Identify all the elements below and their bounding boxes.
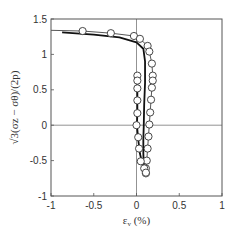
y-axis-label: √3(σz − σθ)/(2p) bbox=[8, 70, 21, 144]
y-tick-label: 1.5 bbox=[33, 14, 47, 25]
data-point-circle bbox=[144, 145, 151, 152]
data-point-circle bbox=[146, 48, 153, 55]
data-point-circle bbox=[135, 145, 142, 152]
data-point-circle bbox=[137, 158, 144, 165]
data-point-circle bbox=[135, 134, 142, 141]
data-point-circle bbox=[79, 27, 86, 34]
y-tick-label: 0.5 bbox=[33, 84, 47, 95]
data-point-circle bbox=[145, 133, 152, 140]
y-tick-label: -0.5 bbox=[30, 155, 48, 166]
data-point-circle bbox=[133, 122, 140, 129]
y-tick-label: 1 bbox=[41, 49, 47, 60]
x-tick-label: 1 bbox=[219, 200, 225, 211]
data-point-circle bbox=[134, 85, 141, 92]
x-tick-label: -0.5 bbox=[85, 200, 103, 211]
data-point-circle bbox=[134, 77, 141, 84]
thick-curve bbox=[62, 32, 145, 169]
y-tick-label: 0 bbox=[41, 120, 47, 131]
x-axis-label: εv (%) bbox=[123, 214, 151, 228]
chart: -1-0.500.51 -1-0.500.511.5 εv (%) √3(σz … bbox=[0, 0, 233, 239]
data-point-circle bbox=[134, 110, 141, 117]
data-point-circle bbox=[147, 96, 154, 103]
data-point-circle bbox=[136, 35, 143, 42]
data-point-circle bbox=[146, 121, 153, 128]
data-point-circle bbox=[148, 84, 155, 91]
x-tick-label: 0.5 bbox=[172, 200, 186, 211]
data-point-circle bbox=[149, 77, 156, 84]
x-tick-label: 0 bbox=[134, 200, 140, 211]
data-point-circle bbox=[107, 30, 114, 37]
y-tick-label: -1 bbox=[38, 191, 47, 202]
x-tick-label: -1 bbox=[47, 200, 56, 211]
y-axis-ticks: -1-0.500.511.5 bbox=[30, 14, 54, 202]
series-layer bbox=[51, 27, 156, 177]
data-point-circle bbox=[134, 97, 141, 104]
data-point-circle bbox=[142, 169, 149, 176]
data-point-circle bbox=[148, 60, 155, 67]
data-point-circle bbox=[147, 109, 154, 116]
